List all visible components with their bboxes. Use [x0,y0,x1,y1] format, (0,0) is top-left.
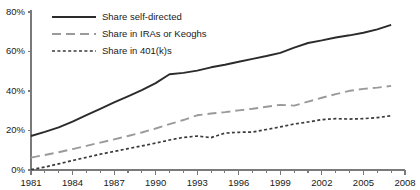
x-axis-tick-label: 1999 [260,177,300,188]
x-axis-tick-label: 1981 [11,177,51,188]
x-axis-tick-label: 1996 [219,177,259,188]
y-axis-tick-label: 20% [6,124,25,135]
series-line-2 [31,86,391,158]
legend-item: Share in 401(k)s [52,42,262,59]
legend-item: Share self-directed [52,8,262,25]
legend-line-swatch-icon [52,46,96,56]
y-axis-tick-label: 0% [11,164,25,175]
x-axis-tick-label: 1993 [177,177,217,188]
y-axis-tick-label: 80% [6,6,25,17]
y-axis-tick-label: 40% [6,85,25,96]
legend-item: Share in IRAs or Keoghs [52,25,262,42]
legend-item-label: Share in 401(k)s [102,45,172,56]
chart-legend: Share self-directedShare in IRAs or Keog… [52,8,262,59]
x-axis-tick-label: 2008 [385,177,420,188]
series-line-3 [31,116,391,170]
legend-item-label: Share self-directed [102,11,182,22]
x-axis-tick-label: 2005 [343,177,383,188]
x-axis-tick-label: 1984 [53,177,93,188]
x-axis-tick-label: 1987 [94,177,134,188]
legend-line-swatch-icon [52,12,96,22]
x-axis-tick-label: 2002 [302,177,342,188]
x-axis-tick-label: 1990 [136,177,176,188]
y-axis-tick-label: 60% [6,45,25,56]
legend-line-swatch-icon [52,29,96,39]
legend-item-label: Share in IRAs or Keoghs [102,28,207,39]
